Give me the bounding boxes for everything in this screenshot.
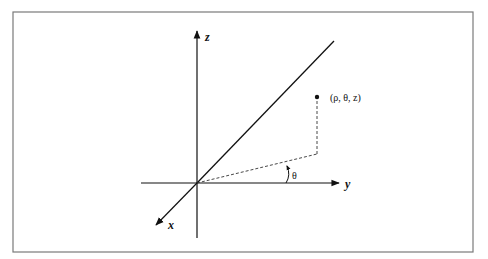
point-label: (ρ, θ, z) (330, 92, 361, 104)
diagram-frame (13, 12, 473, 252)
cylindrical-coordinates-diagram: z y x (ρ, θ, z) θ (0, 0, 488, 259)
y-axis-label: y (343, 177, 351, 191)
x-axis-label: x (167, 218, 174, 232)
z-axis-label: z (204, 30, 210, 44)
point-marker (315, 95, 319, 99)
theta-label: θ (292, 170, 297, 181)
